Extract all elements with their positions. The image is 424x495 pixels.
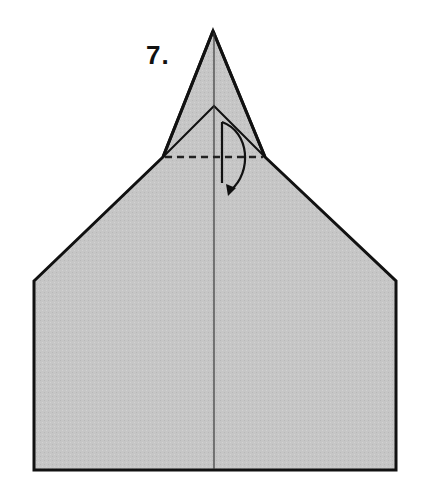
step-number-label: 7. [146,40,170,71]
paper-body [34,31,396,470]
origami-diagram: 7. [0,0,424,495]
diagram-svg [0,0,424,495]
